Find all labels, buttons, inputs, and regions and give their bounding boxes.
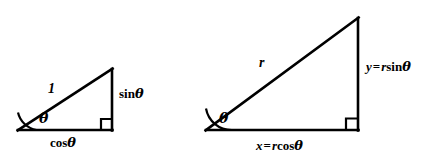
unit-triangle-angle-label: θ — [39, 111, 48, 126]
unit-opposite-theta: θ — [135, 86, 144, 101]
unit-hypotenuse-value: 1 — [48, 81, 55, 96]
scaled-adjacent-function: cos — [277, 138, 294, 153]
unit-angle-theta: θ — [39, 110, 48, 126]
scaled-adjacent-variable: x — [256, 138, 263, 153]
scaled-triangle-angle-label: θ — [219, 111, 228, 126]
unit-triangle — [18, 69, 113, 131]
unit-triangle-opposite-label: sinθ — [119, 87, 144, 100]
scaled-adjacent-theta: θ — [294, 138, 303, 153]
scaled-triangle-right-angle-marker — [346, 119, 358, 131]
unit-triangle-hypotenuse-side — [18, 69, 113, 131]
scaled-triangle-adjacent-label: x=rcosθ — [256, 139, 303, 152]
scaled-angle-theta: θ — [219, 110, 228, 126]
scaled-triangle-opposite-label: y=rsinθ — [366, 60, 411, 73]
trigonometry-figure: 1 θ sinθ cosθ r θ y=rsinθ x=rcosθ — [0, 0, 436, 162]
scaled-opposite-function: sin — [386, 59, 402, 74]
scaled-adjacent-equals: = — [263, 138, 272, 153]
scaled-opposite-equals: = — [372, 59, 381, 74]
scaled-hypotenuse-value: r — [259, 55, 264, 70]
unit-adjacent-theta: θ — [67, 135, 76, 150]
unit-triangle-right-angle-marker — [101, 119, 112, 130]
unit-triangle-hypotenuse-label: 1 — [48, 82, 55, 96]
unit-adjacent-function: cos — [50, 135, 67, 150]
unit-triangle-adjacent-label: cosθ — [50, 136, 76, 149]
unit-opposite-function: sin — [119, 86, 135, 101]
scaled-triangle-hypotenuse-side — [206, 18, 359, 131]
scaled-opposite-variable: y — [366, 59, 372, 74]
scaled-triangle-hypotenuse-label: r — [259, 56, 264, 70]
scaled-opposite-theta: θ — [402, 59, 411, 74]
scaled-triangle — [206, 18, 359, 131]
